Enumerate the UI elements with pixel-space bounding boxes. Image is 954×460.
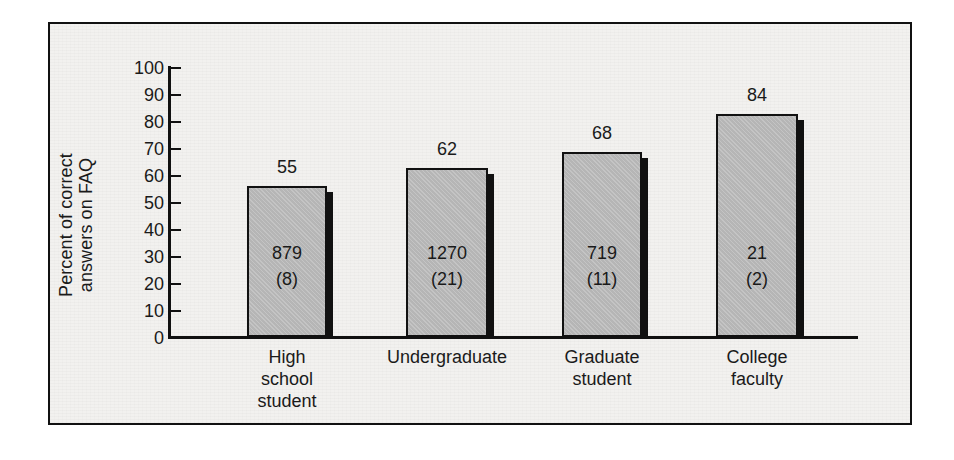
y-axis-label-line-2: answers on FAQ bbox=[76, 158, 96, 292]
category-label-3: Graduate student bbox=[532, 347, 672, 391]
bar-value-label-2: 62 bbox=[406, 140, 488, 158]
y-tick-mark-60 bbox=[170, 175, 181, 177]
bar-inner-n-3: 719 bbox=[562, 240, 642, 266]
bar-inner-labels-2: 1270 (21) bbox=[406, 240, 488, 292]
category-label-3-line-2: student bbox=[532, 369, 672, 391]
category-label-4-line-1: College bbox=[687, 347, 827, 369]
y-axis-line bbox=[168, 66, 171, 339]
y-tick-label-20: 20 bbox=[120, 275, 164, 293]
y-tick-label-80: 80 bbox=[120, 113, 164, 131]
y-tick-label-10: 10 bbox=[120, 302, 164, 320]
y-axis-tick-labels: 100 90 80 70 60 50 40 30 20 10 0 bbox=[120, 0, 164, 460]
y-tick-mark-10 bbox=[170, 310, 181, 312]
bar-inner-n-4: 21 bbox=[716, 240, 798, 266]
bar-inner-labels-3: 719 (11) bbox=[562, 240, 642, 292]
y-tick-mark-80 bbox=[170, 121, 181, 123]
bar-inner-labels-1: 879 (8) bbox=[247, 240, 327, 292]
y-tick-mark-30 bbox=[170, 256, 181, 258]
y-tick-label-100: 100 bbox=[120, 59, 164, 77]
category-label-1: High school student bbox=[217, 347, 357, 413]
y-tick-label-60: 60 bbox=[120, 167, 164, 185]
category-label-2-line-1: Undergraduate bbox=[377, 347, 517, 369]
y-tick-mark-20 bbox=[170, 283, 181, 285]
bar-inner-paren-2: (21) bbox=[406, 266, 488, 292]
y-tick-mark-70 bbox=[170, 148, 181, 150]
y-axis-label: Percent of correct answers on FAQ bbox=[53, 100, 99, 350]
y-tick-label-30: 30 bbox=[120, 248, 164, 266]
bar-chart-plot: Percent of correct answers on FAQ 100 90… bbox=[0, 0, 954, 460]
bar-body-4 bbox=[716, 114, 798, 337]
bar-inner-paren-4: (2) bbox=[716, 266, 798, 292]
y-tick-label-50: 50 bbox=[120, 194, 164, 212]
bar-inner-n-2: 1270 bbox=[406, 240, 488, 266]
bar-value-label-3: 68 bbox=[562, 124, 642, 142]
category-label-3-line-1: Graduate bbox=[532, 347, 672, 369]
category-label-2: Undergraduate bbox=[377, 347, 517, 369]
y-tick-label-70: 70 bbox=[120, 140, 164, 158]
y-tick-mark-50 bbox=[170, 202, 181, 204]
y-tick-mark-90 bbox=[170, 94, 181, 96]
figure: Percent of correct answers on FAQ 100 90… bbox=[0, 0, 954, 460]
y-tick-mark-40 bbox=[170, 229, 181, 231]
bar-inner-n-1: 879 bbox=[247, 240, 327, 266]
y-tick-label-90: 90 bbox=[120, 86, 164, 104]
category-label-1-line-3: student bbox=[217, 391, 357, 413]
category-label-1-line-1: High bbox=[217, 347, 357, 369]
bar-value-label-1: 55 bbox=[247, 158, 327, 176]
category-label-4-line-2: faculty bbox=[687, 369, 827, 391]
bar-inner-paren-1: (8) bbox=[247, 266, 327, 292]
bar-inner-labels-4: 21 (2) bbox=[716, 240, 798, 292]
bar-inner-paren-3: (11) bbox=[562, 266, 642, 292]
y-axis-label-line-1: Percent of correct bbox=[56, 153, 76, 297]
y-tick-label-40: 40 bbox=[120, 221, 164, 239]
y-tick-mark-100 bbox=[170, 67, 181, 69]
category-label-1-line-2: school bbox=[217, 369, 357, 391]
category-label-4: College faculty bbox=[687, 347, 827, 391]
y-tick-label-0: 0 bbox=[120, 329, 164, 347]
bar-value-label-4: 84 bbox=[716, 86, 798, 104]
